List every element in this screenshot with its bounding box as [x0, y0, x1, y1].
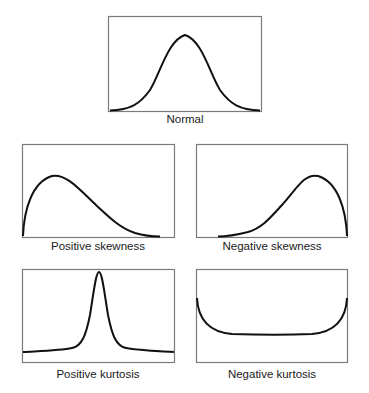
panel-negative-kurtosis: [0, 0, 369, 393]
label-negative-kurtosis: Negative kurtosis: [212, 368, 332, 380]
negative-kurtosis-plot: [0, 0, 369, 393]
plot-frame: [197, 270, 348, 363]
negative-kurtosis-curve: [197, 298, 347, 335]
